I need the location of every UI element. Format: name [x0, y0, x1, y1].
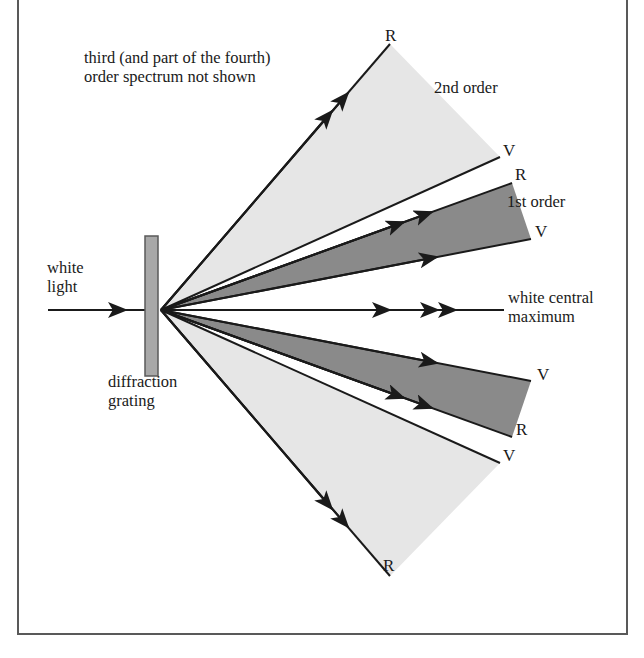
first-order-down-outer-endpoint-label: R — [516, 420, 527, 440]
first-order-up-outer-endpoint-label: R — [515, 165, 526, 185]
white-central-maximum-label: white central maximum — [508, 288, 594, 327]
first-order-down-inner-endpoint-label: V — [537, 365, 549, 385]
second-order-down-outer-endpoint-label: R — [383, 556, 394, 576]
second-order-up-outer-endpoint-label: R — [385, 26, 396, 46]
figure-canvas: third (and part of the fourth) order spe… — [0, 0, 644, 658]
diffraction-grating-plate — [145, 236, 158, 376]
second-order-label: 2nd order — [434, 78, 498, 97]
first-order-label: 1st order — [507, 192, 565, 211]
diffraction-grating-label: diffraction grating — [108, 372, 177, 411]
second-order-up-inner-endpoint-label: V — [503, 141, 515, 161]
first-order-up-inner-endpoint-label: V — [535, 222, 547, 242]
second-order-down-inner-endpoint-label: V — [503, 446, 515, 466]
white-light-label: white light — [47, 258, 84, 297]
diffraction-diagram — [0, 0, 644, 658]
not-shown-note: third (and part of the fourth) order spe… — [84, 48, 270, 87]
